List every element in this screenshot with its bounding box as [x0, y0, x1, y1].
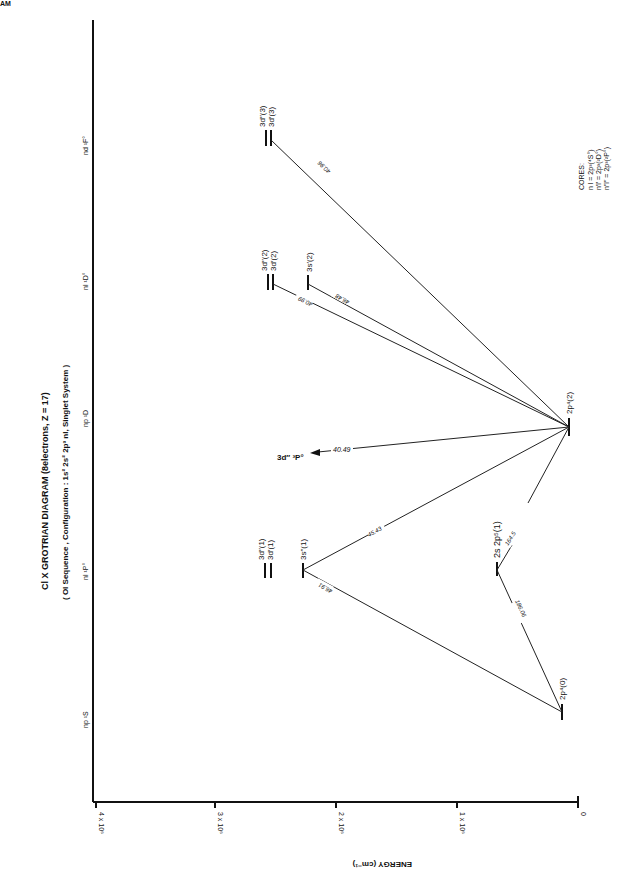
transition-line [303, 570, 562, 712]
diagram-subtitle: ( OI Sequence , Configuration : 1s² 2s² … [61, 365, 70, 600]
transition-line [273, 284, 569, 427]
diagram-title: Cl X GROTRIAN DIAGRAM (8electrons, Z = 1… [40, 392, 50, 590]
column-label-np1D: np ¹D [82, 410, 90, 427]
wavelength-label: 40.49 [333, 446, 351, 453]
tick-label: 0 [580, 812, 587, 816]
level-label-3d-3P: 3d″ ³P° [277, 453, 304, 462]
column-label-np1S: np ¹S [82, 711, 90, 728]
column-label-nd1F: nd ¹F° [82, 136, 89, 155]
column-label-nl1D: nl ¹D° [82, 272, 89, 290]
level-label: 3s″(1) [299, 539, 308, 560]
tick-label: 4 x 10⁶ [98, 812, 105, 834]
transition-line [497, 570, 562, 712]
level-label: 2p⁴(2) [565, 392, 574, 414]
cores-line: n l = 2p³(⁴S°) [587, 149, 595, 190]
level-label: 2p⁴(0) [558, 678, 567, 700]
level-label: 2s 2p⁵(1) [492, 521, 502, 558]
tick-label: 2 x 10⁶ [338, 812, 345, 834]
level-label: 3d″(1) [257, 538, 266, 560]
column-label-nl1P: nl ¹P° [82, 563, 89, 580]
transition-line [318, 427, 569, 452]
cores-legend: CORES: n l = 2p³(⁴S°) n′l′ = 2p³(²D°) n″… [578, 147, 611, 190]
cores-line: n″l″ = 2p³(²P°) [603, 147, 611, 190]
level-label: 3d″(3) [258, 105, 267, 127]
level-label: 3d″(2) [260, 249, 269, 271]
level-label: 3d′(1) [266, 539, 275, 560]
level-label: 3d′(2) [269, 250, 278, 271]
level-label: 3s′(2) [305, 252, 314, 272]
grotrian-diagram: 4 x 10⁶ 3 x 10⁶ 2 x 10⁶ 1 x 10⁶ 0 ENERGY… [0, 0, 628, 895]
transition-line [271, 140, 569, 427]
axis-title: ENERGY (cm⁻¹) [352, 860, 412, 869]
arrow-icon [310, 449, 320, 456]
tick-label: 3 x 10⁶ [217, 812, 224, 834]
tick-label: 1 x 10⁶ [459, 812, 466, 834]
cores-heading: CORES: [578, 163, 585, 190]
cores-line: n′l′ = 2p³(²D°) [595, 149, 603, 190]
level-label: 3d′(3) [267, 106, 276, 127]
